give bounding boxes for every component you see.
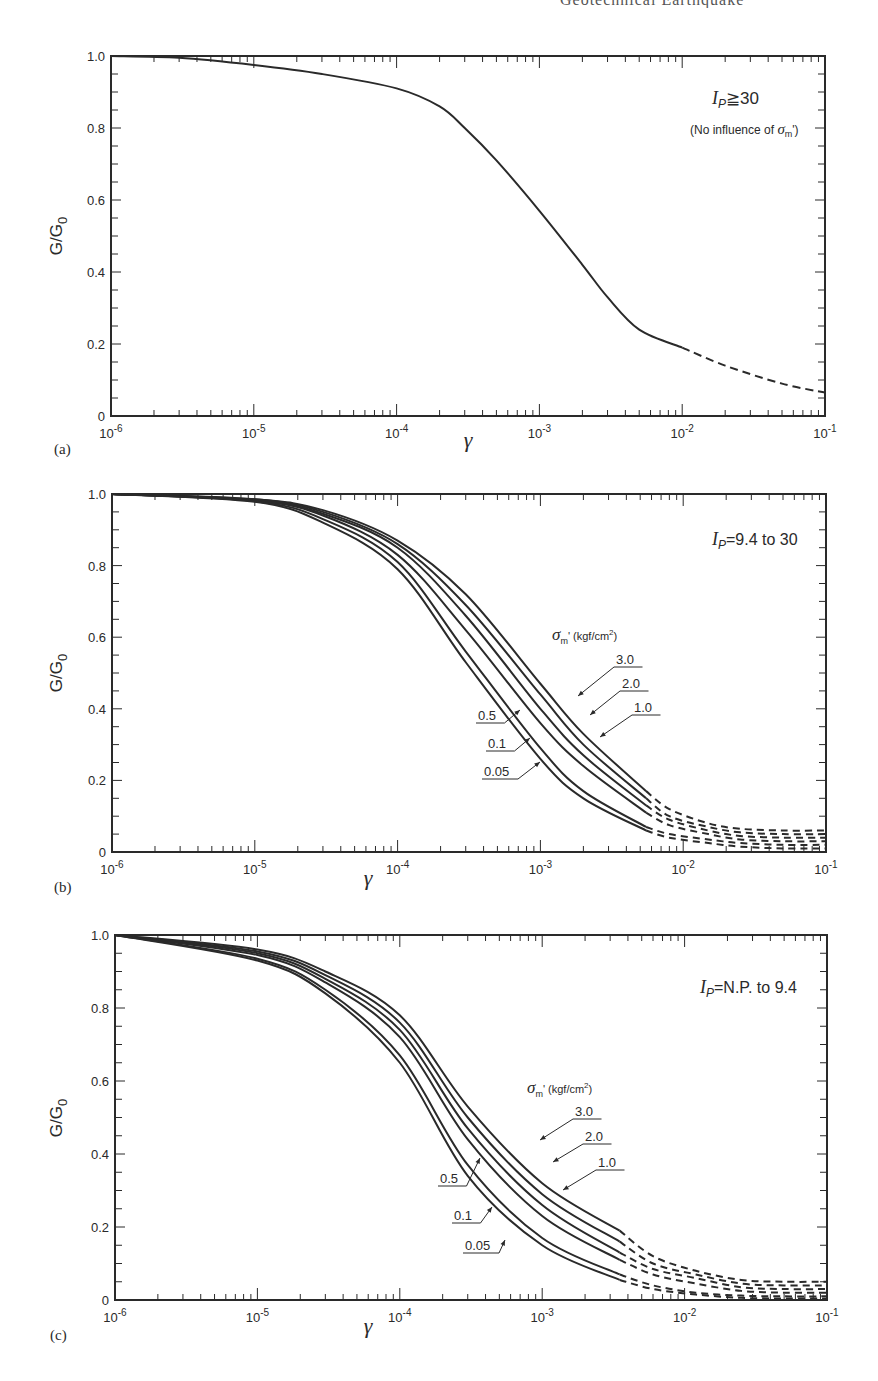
x-tick-label: 10-3 xyxy=(531,1307,555,1325)
y-tick-label: 0.8 xyxy=(91,1001,109,1016)
y-tick-label: 0.6 xyxy=(91,1074,109,1089)
arrow-head-icon xyxy=(540,1135,546,1140)
y-tick-label: 0 xyxy=(102,1293,109,1308)
series-curve-extrapolated xyxy=(620,1253,827,1290)
y-axis-title: G/G0 xyxy=(47,1099,70,1137)
series-label: 2.0 xyxy=(585,1129,603,1144)
x-tick-label: 10-6 xyxy=(103,1307,127,1325)
arrow-head-icon xyxy=(553,1157,559,1162)
series-label: 0.5 xyxy=(440,1171,458,1186)
series-label: 1.0 xyxy=(598,1155,616,1170)
series-curve xyxy=(115,935,620,1280)
chart-panel-c: 10-610-510-410-310-210-100.20.40.60.81.0… xyxy=(0,0,878,1381)
x-tick-label: 10-5 xyxy=(246,1307,270,1325)
series-callout: 0.05 xyxy=(463,1238,505,1253)
x-tick-label: 10-4 xyxy=(388,1307,412,1325)
y-tick-label: 1.0 xyxy=(91,928,109,943)
x-tick-label: 10-1 xyxy=(815,1307,839,1325)
legend-title: σm' (kgf/cm2) xyxy=(527,1078,592,1099)
series-label: 3.0 xyxy=(575,1104,593,1119)
series-curve-extrapolated xyxy=(620,1231,827,1282)
series-label: 0.05 xyxy=(465,1238,490,1253)
x-axis-title: γ xyxy=(364,1313,374,1338)
y-tick-label: 0.2 xyxy=(91,1220,109,1235)
ip-annotation: IP=N.P. to 9.4 xyxy=(699,977,797,1000)
series-curve xyxy=(115,935,620,1274)
series-curve-extrapolated xyxy=(620,1260,827,1293)
series-callout: 1.0 xyxy=(563,1155,625,1190)
series-callout: 0.1 xyxy=(452,1207,492,1223)
y-tick-label: 0.4 xyxy=(91,1147,109,1162)
arrow-head-icon xyxy=(487,1207,492,1213)
x-tick-label: 10-2 xyxy=(673,1307,697,1325)
series-curve-extrapolated xyxy=(620,1242,827,1286)
series-label: 0.1 xyxy=(454,1208,472,1223)
panel-label: (c) xyxy=(50,1327,67,1344)
arrow-head-icon xyxy=(563,1185,569,1190)
series-curve xyxy=(115,935,620,1260)
